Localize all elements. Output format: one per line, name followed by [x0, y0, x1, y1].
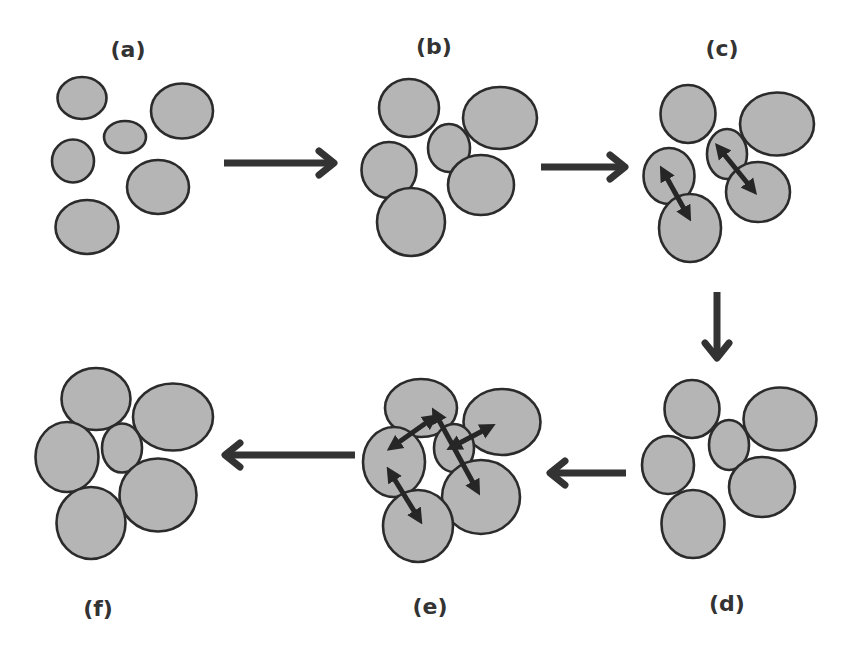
panel-a: (a) [52, 37, 213, 254]
particle [104, 121, 146, 153]
panel-label-c: (c) [705, 36, 738, 61]
particle [127, 160, 189, 214]
panel-label-d: (d) [709, 591, 745, 616]
panel-label-e: (e) [412, 594, 447, 619]
particle [120, 459, 197, 532]
particle [744, 388, 817, 451]
panel-label-b: (b) [416, 34, 452, 59]
particle [363, 427, 425, 497]
panel-label-a: (a) [111, 37, 146, 62]
particle [377, 188, 445, 256]
particle [642, 436, 694, 494]
panel-c: (c) [644, 36, 815, 262]
flow-arrow-c-to-d-icon [705, 292, 729, 358]
particle [57, 487, 126, 559]
sintering-diagram: (a)(b)(c)(d)(e)(f) [0, 0, 861, 661]
particle [58, 77, 107, 119]
particle [665, 380, 720, 438]
panel-label-f: (f) [83, 596, 113, 621]
particle [379, 79, 439, 137]
particle [383, 490, 453, 562]
particle [662, 490, 725, 558]
flow-arrow-a-to-b-icon [224, 151, 334, 175]
particle [729, 457, 795, 517]
flow-arrow-e-to-f-icon [225, 443, 355, 467]
particle [62, 368, 131, 430]
particle [151, 84, 213, 139]
particle [448, 155, 514, 215]
particle [659, 194, 721, 262]
flow-arrow-b-to-c-icon [541, 155, 625, 179]
panel-d: (d) [642, 380, 817, 616]
particle [740, 93, 814, 156]
particle [52, 140, 94, 183]
flow-arrow-d-to-e-icon [550, 461, 626, 485]
panel-b: (b) [362, 34, 538, 256]
panel-e: (e) [363, 379, 541, 619]
particle [133, 384, 213, 451]
particle [463, 87, 537, 149]
panel-f: (f) [36, 368, 214, 621]
particle [661, 85, 716, 143]
particle [56, 200, 119, 254]
particle [36, 422, 99, 492]
panels-layer: (a)(b)(c)(d)(e)(f) [36, 34, 817, 621]
